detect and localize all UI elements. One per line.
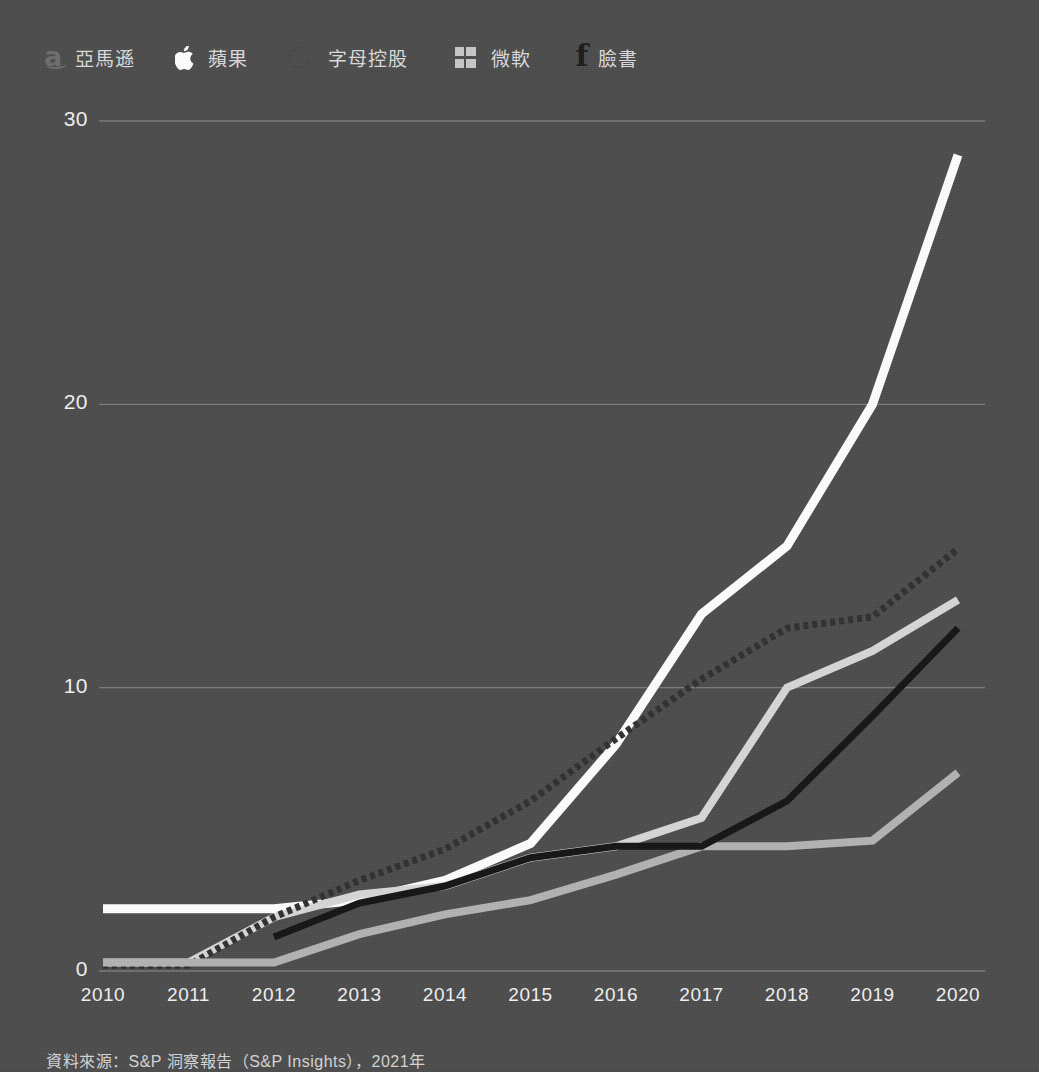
x-tick-label: 2018	[744, 984, 830, 1006]
apple-icon	[173, 45, 199, 71]
x-tick-label: 2012	[231, 984, 317, 1006]
x-tick-label: 2016	[573, 984, 659, 1006]
y-tick-label: 0	[32, 957, 88, 981]
series-line-microsoft	[103, 773, 958, 963]
y-tick-label: 30	[32, 107, 88, 131]
chart-legend: a 亞馬遜 蘋果 字母控股 微軟 f 臉書	[40, 44, 638, 71]
alphabet-icon	[286, 45, 312, 71]
y-tick-label: 20	[32, 390, 88, 414]
x-tick-label: 2014	[402, 984, 488, 1006]
y-tick-label: 10	[32, 674, 88, 698]
x-tick-label: 2017	[659, 984, 745, 1006]
facebook-icon: f	[569, 45, 595, 71]
x-tick-label: 2010	[60, 984, 146, 1006]
x-tick-label: 2020	[915, 984, 1001, 1006]
amazon-icon: a	[40, 45, 66, 71]
legend-item-microsoft[interactable]: 微軟	[452, 44, 531, 71]
legend-label-apple: 蘋果	[208, 44, 248, 71]
legend-label-microsoft: 微軟	[491, 44, 531, 71]
source-caption: 資料來源：S&P 洞察報告（S&P Insights），2021年	[46, 1048, 426, 1072]
legend-item-alphabet[interactable]: 字母控股	[286, 44, 408, 71]
series-line-amazon	[103, 155, 958, 909]
legend-item-amazon[interactable]: a 亞馬遜	[40, 44, 135, 71]
x-tick-label: 2015	[488, 984, 574, 1006]
legend-label-facebook: 臉書	[598, 44, 638, 71]
legend-label-alphabet: 字母控股	[328, 44, 408, 71]
x-tick-label: 2019	[830, 984, 916, 1006]
x-tick-label: 2013	[317, 984, 403, 1006]
legend-item-facebook[interactable]: f 臉書	[569, 44, 638, 71]
legend-item-apple[interactable]: 蘋果	[173, 44, 248, 71]
legend-label-amazon: 亞馬遜	[75, 44, 135, 71]
microsoft-icon	[452, 45, 478, 71]
x-tick-label: 2011	[146, 984, 232, 1006]
